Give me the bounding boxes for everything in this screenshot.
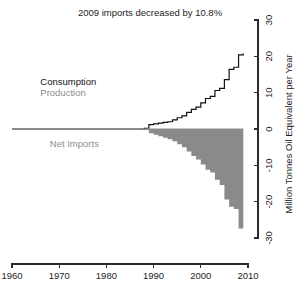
y-tick-label: 30 [263,15,274,26]
figure-caption [4,292,296,300]
x-axis-line [12,264,248,268]
annotation-consumption: Consumption [40,76,96,87]
x-tick-label: 1990 [143,270,164,281]
chart-annotations: ConsumptionProductionNet Imports [40,76,99,149]
y-axis-title: Million Tonnes Oil Equivalent per Year [283,54,294,213]
annotation-net-imports: Net Imports [50,138,99,149]
chart-figure: 2009 imports decreased by 10.8% 19601970… [0,0,300,300]
x-tick-label: 2000 [190,270,211,281]
y-axis: -30-20-100102030 [254,15,274,245]
annotation-production: Production [40,87,85,98]
y-tick-label: 10 [263,87,274,98]
series-area-net-imports [12,129,243,237]
y-tick-label: -10 [263,158,274,172]
x-tick-label: 1960 [1,270,22,281]
y-tick-label: 0 [263,126,274,131]
x-axis: 196019701980199020002010 [1,264,258,281]
chart-canvas: 2009 imports decreased by 10.8% 19601970… [0,0,300,300]
x-tick-label: 1970 [49,270,70,281]
x-tick-label: 2010 [237,270,258,281]
y-tick-label: -20 [263,195,274,209]
y-tick-label: -30 [263,231,274,245]
y-tick-label: 20 [263,51,274,62]
y-axis-line [254,20,258,238]
chart-title: 2009 imports decreased by 10.8% [78,7,223,18]
x-tick-label: 1980 [96,270,117,281]
